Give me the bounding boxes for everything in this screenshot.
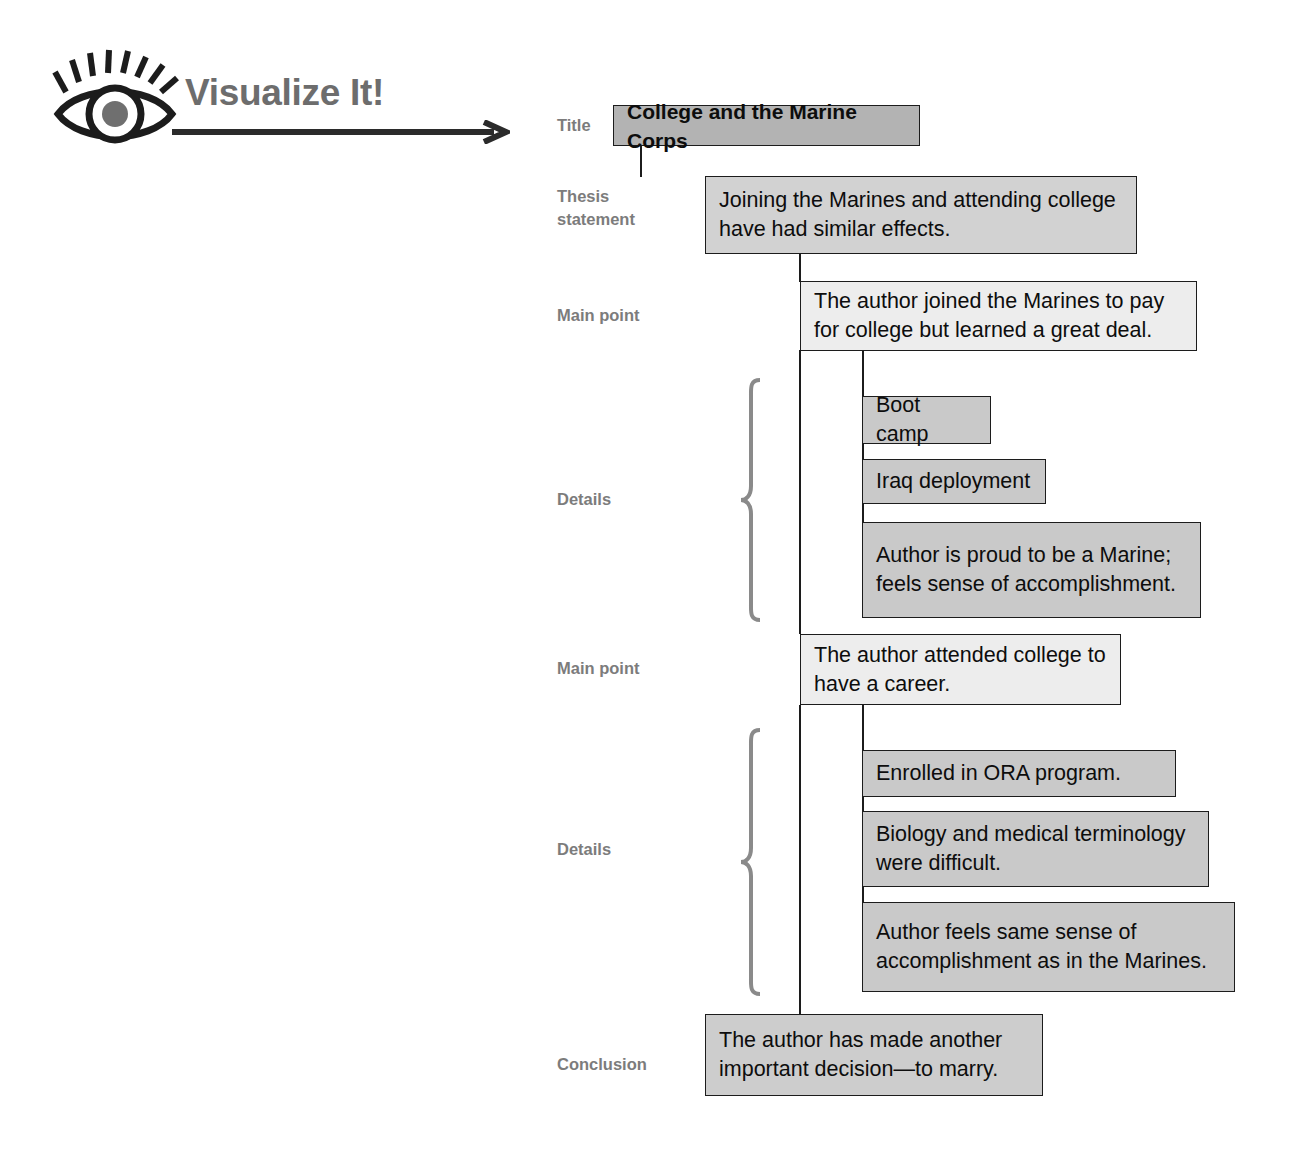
details-group-2-brace xyxy=(738,728,764,996)
node-detail-1-2-text: Iraq deployment xyxy=(876,467,1030,496)
row-label-conclusion: Conclusion xyxy=(557,1053,647,1076)
node-main-point-1[interactable]: The author joined the Marines to pay for… xyxy=(800,281,1197,351)
node-title-text: College and the Marine Corps xyxy=(627,97,907,155)
node-title[interactable]: College and the Marine Corps xyxy=(613,105,920,146)
node-detail-2-1-text: Enrolled in ORA program. xyxy=(876,759,1121,788)
node-detail-2-3[interactable]: Author feels same sense of accomplishmen… xyxy=(862,902,1235,992)
page-root: Visualize It! Title Thesis state xyxy=(0,0,1296,1154)
node-detail-1-3[interactable]: Author is proud to be a Marine; feels se… xyxy=(862,522,1201,618)
node-detail-1-1-text: Boot camp xyxy=(876,391,978,449)
outline-map-diagram: Title Thesis statement Main point Detail… xyxy=(0,0,1296,1154)
node-main-point-2-text: The author attended college to have a ca… xyxy=(814,641,1108,699)
row-label-details-2: Details xyxy=(557,838,611,861)
row-label-title: Title xyxy=(557,114,591,137)
node-main-point-2[interactable]: The author attended college to have a ca… xyxy=(800,634,1121,705)
connector-spine-lower xyxy=(799,705,801,1014)
node-main-point-1-text: The author joined the Marines to pay for… xyxy=(814,287,1184,345)
row-label-main-point-1: Main point xyxy=(557,304,639,327)
row-label-main-point-2: Main point xyxy=(557,657,639,680)
row-label-details-1: Details xyxy=(557,488,611,511)
node-detail-1-1[interactable]: Boot camp xyxy=(862,396,991,444)
node-detail-1-3-text: Author is proud to be a Marine; feels se… xyxy=(876,541,1188,599)
node-detail-2-1[interactable]: Enrolled in ORA program. xyxy=(862,750,1176,797)
node-thesis-text: Joining the Marines and attending colleg… xyxy=(719,186,1124,244)
details-group-1-brace xyxy=(738,378,764,622)
node-conclusion[interactable]: The author has made another important de… xyxy=(705,1014,1043,1096)
node-conclusion-text: The author has made another important de… xyxy=(719,1026,1030,1084)
node-detail-2-2-text: Biology and medical terminology were dif… xyxy=(876,820,1196,878)
row-label-thesis: Thesis statement xyxy=(557,185,635,231)
connector-thesis-to-spine xyxy=(799,253,801,282)
node-detail-2-2[interactable]: Biology and medical terminology were dif… xyxy=(862,811,1209,887)
node-detail-1-2[interactable]: Iraq deployment xyxy=(862,459,1046,504)
connector-spine-upper xyxy=(799,350,801,634)
node-thesis[interactable]: Joining the Marines and attending colleg… xyxy=(705,176,1137,254)
node-detail-2-3-text: Author feels same sense of accomplishmen… xyxy=(876,918,1222,976)
